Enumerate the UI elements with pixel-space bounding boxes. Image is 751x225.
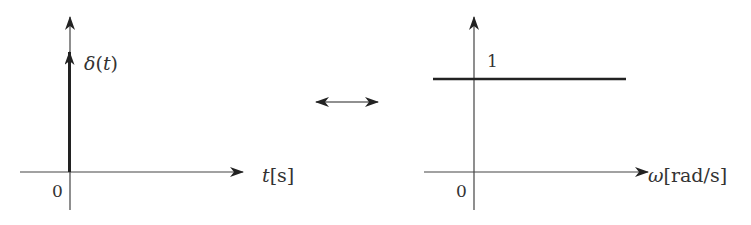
left-origin-label: 0	[52, 181, 63, 201]
level-label: 1	[487, 51, 498, 71]
left-x-axis-label: t[s]	[262, 164, 294, 186]
fourier-pair-diagram: δ(t) 0 t[s] 1 0 ω[rad/s]	[0, 0, 751, 225]
left-plot: δ(t) 0 t[s]	[20, 17, 294, 210]
delta-label: δ(t)	[84, 52, 118, 74]
right-plot: 1 0 ω[rad/s]	[424, 17, 727, 210]
right-origin-label: 0	[456, 181, 467, 201]
right-x-axis-label: ω[rad/s]	[648, 164, 727, 186]
